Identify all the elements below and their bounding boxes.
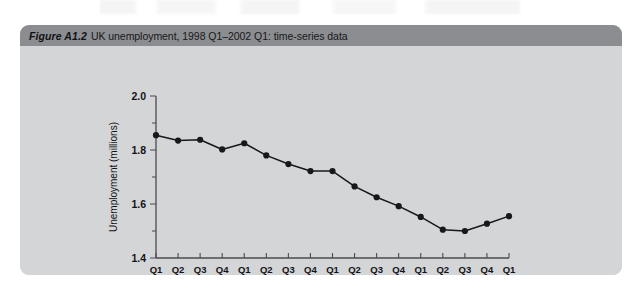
series-line [156,135,509,231]
y-tick-label: 2.0 [131,90,146,102]
series-marker [351,183,357,189]
page-scan-artifact [100,0,520,14]
series-line-group [156,135,509,231]
series-marker [396,203,402,209]
series-marker [285,161,291,167]
series-marker [263,152,269,158]
series-marker [197,137,203,143]
unemployment-line-chart: Unemployment (millions) 1.41.61.82.0 Q1Q… [20,46,622,275]
series-marker [484,221,490,227]
x-axis-quarter-labels-group: Q1Q2Q3Q4Q1Q2Q3Q4Q1Q2Q3Q4Q1Q2Q3Q4Q1 [150,264,516,275]
y-axis-label-group: Unemployment (millions) [108,122,119,232]
plot-area: Unemployment (millions) 1.41.61.82.0 Q1Q… [20,46,622,275]
x-tick-label: Q1 [326,264,339,275]
series-marker [462,228,468,234]
x-axis-ticks-group [156,253,509,258]
x-tick-label: Q3 [194,264,207,275]
series-marker [418,214,424,220]
y-axis-ticks-group: 1.41.61.82.0 [131,90,156,264]
x-tick-label: Q2 [348,264,361,275]
figure-header: Figure A1.2 UK unemployment, 1998 Q1–200… [20,25,622,46]
x-tick-label: Q2 [260,264,273,275]
x-tick-label: Q3 [459,264,472,275]
y-tick-label: 1.8 [131,144,146,156]
x-tick-label: Q4 [304,264,317,275]
y-tick-label: 1.4 [131,252,146,264]
x-tick-label: Q1 [503,264,516,275]
series-marker [440,227,446,233]
x-tick-label: Q2 [436,264,449,275]
figure-label: Figure A1.2 [29,30,87,42]
series-marker [329,168,335,174]
x-tick-label: Q2 [172,264,185,275]
x-tick-label: Q3 [370,264,383,275]
series-marker [241,140,247,146]
x-tick-label: Q1 [238,264,251,275]
series-marker [153,132,159,138]
y-tick-label: 1.6 [131,198,146,210]
x-tick-label: Q4 [481,264,494,275]
x-tick-label: Q3 [282,264,295,275]
x-tick-label: Q4 [216,264,229,275]
figure-caption: UK unemployment, 1998 Q1–2002 Q1: time-s… [91,30,348,42]
x-tick-label: Q1 [150,264,163,275]
x-tick-label: Q4 [392,264,405,275]
series-marker [219,146,225,152]
series-marker [506,213,512,219]
series-marker [175,137,181,143]
series-marker [374,194,380,200]
y-axis-title: Unemployment (millions) [108,122,119,232]
series-markers-group [153,132,512,234]
screenshot-page: Figure A1.2 UK unemployment, 1998 Q1–200… [0,0,642,291]
figure-card: Figure A1.2 UK unemployment, 1998 Q1–200… [20,25,622,275]
x-tick-label: Q1 [414,264,427,275]
axis-lines-group [156,96,509,258]
series-marker [307,168,313,174]
